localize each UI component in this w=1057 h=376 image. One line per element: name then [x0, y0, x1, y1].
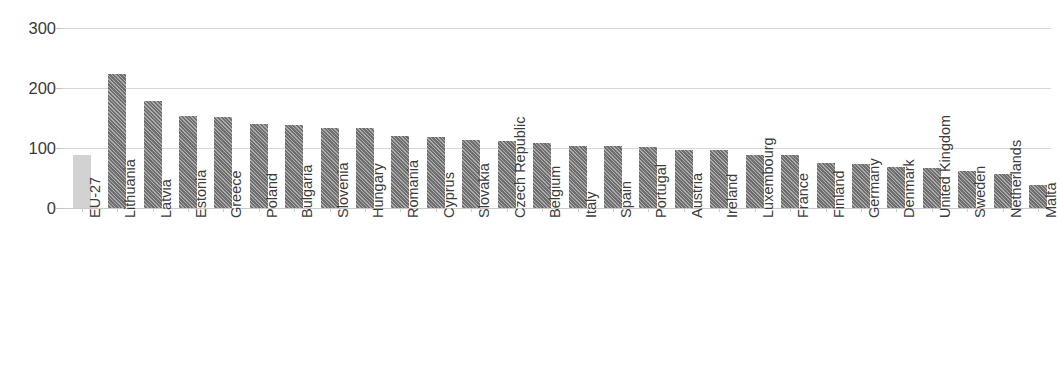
x-label-poland: Poland [265, 173, 280, 218]
x-label-germany: Germany [867, 158, 882, 218]
x-label-sweden: Sweden [973, 166, 988, 218]
x-label-netherlands: Netherlands [1009, 140, 1024, 218]
x-tick-mark [153, 208, 154, 212]
x-label-latvia: Latvia [159, 179, 174, 218]
x-label-lithuania: Lithuania [123, 159, 138, 218]
x-label-united-kingdom: United Kingdom [938, 115, 953, 218]
x-label-eu-27: EU-27 [88, 177, 103, 218]
x-label-spain: Spain [619, 181, 634, 218]
x-label-ireland: Ireland [725, 174, 740, 218]
x-label-luxembourg: Luxembourg [761, 137, 776, 218]
x-label-romania: Romania [406, 160, 421, 218]
x-tick-mark [507, 208, 508, 212]
x-label-cyprus: Cyprus [442, 172, 457, 218]
x-tick-mark [613, 208, 614, 212]
x-tick-mark [967, 208, 968, 212]
x-label-slovakia: Slovakia [477, 163, 492, 218]
x-label-malta: Malta [1044, 183, 1057, 218]
bar-slot [135, 0, 170, 208]
x-tick-mark [861, 208, 862, 212]
x-tick-mark [400, 208, 401, 212]
x-tick-mark [223, 208, 224, 212]
x-label-belgium: Belgium [548, 166, 563, 218]
x-label-portugal: Portugal [654, 164, 669, 218]
plot-area: 0100200300 EU-27LithuaniaLatviaEstoniaGr… [0, 0, 1057, 376]
x-tick-mark [790, 208, 791, 212]
x-label-austria: Austria [690, 173, 705, 218]
x-tick-mark [719, 208, 720, 212]
x-label-czech-republic: Czech Republic [513, 116, 528, 218]
x-label-france: France [796, 173, 811, 218]
bar-slot [595, 0, 630, 208]
x-label-denmark: Denmark [902, 159, 917, 218]
x-label-hungary: Hungary [371, 163, 386, 218]
x-label-greece: Greece [229, 170, 244, 218]
x-tick-mark [755, 208, 756, 212]
bar-slot [560, 0, 595, 208]
x-tick-mark [330, 208, 331, 212]
x-tick-mark [578, 208, 579, 212]
x-tick-mark [471, 208, 472, 212]
x-label-estonia: Estonia [194, 170, 209, 218]
x-tick-mark [188, 208, 189, 212]
x-tick-mark [259, 208, 260, 212]
x-label-slovenia: Slovenia [336, 162, 351, 218]
x-tick-mark [1038, 208, 1039, 212]
x-tick-mark [436, 208, 437, 212]
x-tick-mark [826, 208, 827, 212]
x-tick-mark [896, 208, 897, 212]
bar-slot [1020, 0, 1055, 208]
x-label-finland: Finland [832, 170, 847, 218]
x-tick-mark [542, 208, 543, 212]
x-tick-mark [684, 208, 685, 212]
x-tick-mark [117, 208, 118, 212]
x-label-italy: Italy [584, 191, 599, 218]
x-tick-mark [294, 208, 295, 212]
x-label-bulgaria: Bulgaria [300, 165, 315, 218]
x-tick-mark [82, 208, 83, 212]
x-tick-mark [932, 208, 933, 212]
x-tick-mark [648, 208, 649, 212]
x-tick-mark [365, 208, 366, 212]
x-tick-mark [1003, 208, 1004, 212]
bar-chart: 0100200300 EU-27LithuaniaLatviaEstoniaGr… [0, 0, 1057, 376]
